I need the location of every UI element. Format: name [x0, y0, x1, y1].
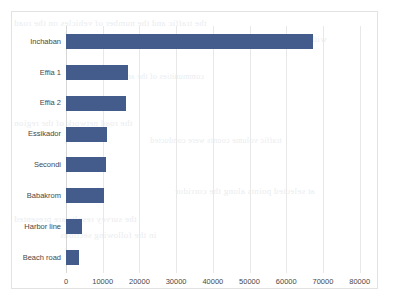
category-label: Beach road — [23, 254, 61, 262]
plot-area: InchabanEffia 1Effia 2EssikadorSecondiBa… — [66, 26, 378, 273]
bar-row: Babakrom — [66, 180, 378, 211]
x-tick-label: 80000 — [349, 278, 370, 286]
bar[interactable] — [66, 96, 126, 111]
category-label: Inchaban — [30, 38, 61, 46]
category-label: Secondi — [34, 161, 61, 169]
category-label: Harbor line — [24, 223, 61, 231]
category-label: Babakrom — [27, 192, 61, 200]
bar-row: Secondi — [66, 150, 378, 181]
x-tick-label: 70000 — [313, 278, 334, 286]
x-tick-label: 0 — [64, 278, 68, 286]
bar[interactable] — [66, 219, 82, 234]
category-label: Effia 1 — [40, 69, 61, 77]
bar-row: Essikador — [66, 119, 378, 150]
bar-row: Effia 2 — [66, 88, 378, 119]
bar[interactable] — [66, 188, 104, 203]
x-tick-label: 30000 — [166, 278, 187, 286]
x-axis-tick-labels: 0100002000030000400005000060000700008000… — [66, 278, 378, 290]
bar-row: Beach road — [66, 242, 378, 273]
x-tick-label: 60000 — [276, 278, 297, 286]
bar[interactable] — [66, 157, 106, 172]
category-label: Effia 2 — [40, 99, 61, 107]
bar[interactable] — [66, 34, 313, 49]
bar[interactable] — [66, 250, 79, 265]
bar[interactable] — [66, 65, 128, 80]
x-tick-label: 40000 — [202, 278, 223, 286]
x-tick-label: 10000 — [92, 278, 113, 286]
bar-series: InchabanEffia 1Effia 2EssikadorSecondiBa… — [66, 26, 378, 273]
bar-row: Effia 1 — [66, 57, 378, 88]
x-tick-label: 50000 — [239, 278, 260, 286]
bar-chart: InchabanEffia 1Effia 2EssikadorSecondiBa… — [11, 11, 378, 289]
category-label: Essikador — [28, 130, 61, 138]
bar-row: Inchaban — [66, 26, 378, 57]
x-tick-label: 20000 — [129, 278, 150, 286]
bar[interactable] — [66, 127, 107, 142]
bar-row: Harbor line — [66, 211, 378, 242]
